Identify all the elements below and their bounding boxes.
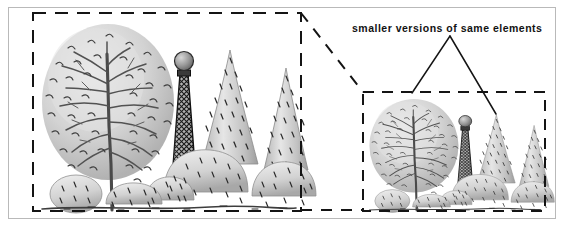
leader-line-right <box>450 36 496 114</box>
leader-line-left <box>412 36 450 93</box>
left-panel-illustration <box>42 24 316 213</box>
figure-canvas: smaller versions of same elements <box>0 0 571 234</box>
figure-artwork <box>0 0 571 234</box>
annotation-label: smaller versions of same elements <box>352 22 562 34</box>
right-panel-illustration <box>369 99 554 212</box>
